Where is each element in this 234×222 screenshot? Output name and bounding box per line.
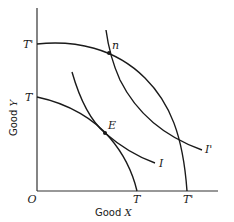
y-axis-label: Good Y	[8, 99, 19, 137]
point-n-label: n	[112, 39, 119, 52]
point-e	[103, 131, 107, 135]
ppf-indifference-diagram: O Good Y Good X T T T' T' I I' E n	[0, 0, 234, 222]
indifference-i-label: I	[158, 157, 164, 170]
indifference-i-prime-label: I'	[204, 143, 212, 156]
tt-y-intercept-label: T	[25, 91, 34, 104]
x-axis-label: Good X	[95, 207, 133, 218]
point-e-label: E	[107, 119, 116, 132]
point-n	[107, 51, 111, 55]
indifference-curve-i-prime	[106, 30, 202, 150]
ppf-t-prime-curve	[37, 43, 187, 191]
origin-label: O	[27, 193, 36, 206]
t-prime-x-intercept-label: T'	[183, 193, 193, 206]
indifference-curve-i	[72, 72, 155, 163]
tt-x-intercept-label: T	[133, 193, 142, 206]
t-prime-y-intercept-label: T'	[23, 38, 33, 51]
